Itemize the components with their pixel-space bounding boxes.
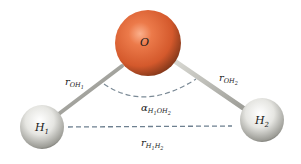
- angle-arc-dashed: [104, 79, 196, 97]
- bond-o-h2: [176, 62, 246, 110]
- bond-o-h1: [56, 66, 122, 116]
- r-h1h2-label: rH1H2: [141, 137, 164, 151]
- r-oh2-label: rOH2: [219, 72, 238, 86]
- r-oh1-label: rOH1: [65, 76, 84, 90]
- angle-alpha-label: αH1OH2: [141, 102, 171, 116]
- water-molecule-diagram: O H1 H2 rOH1 rOH2 αH1OH2 rH1H2: [0, 0, 301, 164]
- h1-h2-distance-dashed: [68, 126, 232, 127]
- oxygen-label: O: [140, 36, 149, 49]
